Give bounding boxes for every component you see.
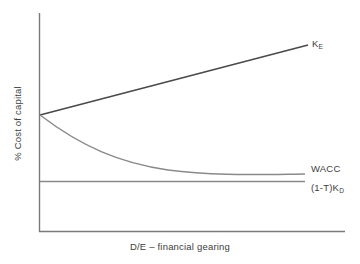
y-axis-title: % Cost of capital — [12, 64, 23, 184]
series-label-wacc-text: WACC — [311, 163, 340, 174]
chart-plot-area — [0, 0, 360, 264]
series-label-ke-subscript: E — [319, 43, 324, 50]
series-line-wacc — [40, 115, 305, 175]
x-axis-title: D/E – financial gearing — [0, 241, 360, 252]
series-label-kd-text: (1-T)K — [311, 182, 339, 193]
cost-of-capital-chart: % Cost of capital D/E – financial gearin… — [0, 0, 360, 264]
series-label-ke-text: K — [312, 38, 319, 49]
series-label-ke: KE — [312, 38, 323, 49]
series-label-wacc: WACC — [311, 163, 340, 174]
series-line-ke — [40, 45, 308, 115]
series-label-kd: (1-T)KD — [311, 182, 344, 193]
series-label-kd-subscript: D — [339, 187, 344, 194]
